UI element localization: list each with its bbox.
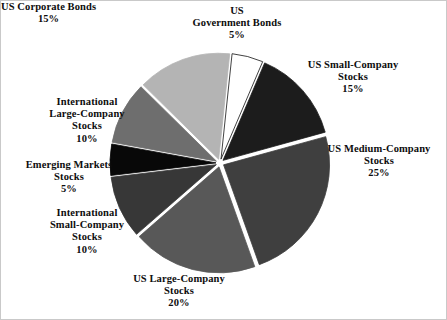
label-percent: 10% xyxy=(27,133,147,145)
label-line-3: Stocks xyxy=(27,120,147,132)
slice-label-us-small-company-stocks: US Small-Company Stocks 15% xyxy=(283,59,423,96)
label-line-1: International xyxy=(23,207,151,219)
label-line-2: Small-Company xyxy=(23,219,151,231)
label-line-1: US Medium-Company xyxy=(311,143,447,155)
label-percent: 15% xyxy=(1,13,96,25)
label-percent: 15% xyxy=(283,83,423,95)
slice-label-us-medium-company-stocks: US Medium-Company Stocks 25% xyxy=(311,143,447,180)
label-line-2: Large-Company xyxy=(27,108,147,120)
slice-label-us-large-company-stocks: US Large-Company Stocks 20% xyxy=(103,273,255,310)
label-line-1: US Small-Company xyxy=(283,59,423,71)
label-line-1: Emerging Markets xyxy=(7,159,131,171)
label-line-1: International xyxy=(27,96,147,108)
label-line-1: US xyxy=(177,5,297,17)
slice-label-us-corporate-bonds: US Corporate Bonds 15% xyxy=(1,1,96,25)
label-line-2: Government Bonds xyxy=(177,17,297,29)
slice-label-us-government-bonds: US Government Bonds 5% xyxy=(177,5,297,42)
label-percent: 20% xyxy=(103,297,255,309)
label-percent: 5% xyxy=(7,183,131,195)
label-line-2: Stocks xyxy=(103,285,255,297)
label-percent: 25% xyxy=(311,167,447,179)
label-line-2: Stocks xyxy=(283,71,423,83)
pie-chart-figure: US Government Bonds 5% US Small-Company … xyxy=(0,0,447,320)
label-line-1: US Large-Company xyxy=(103,273,255,285)
label-line-2: Stocks xyxy=(7,171,131,183)
label-percent: 10% xyxy=(23,244,151,256)
slice-label-international-small-company-stocks: International Small-Company Stocks 10% xyxy=(23,207,151,256)
label-line-2: Stocks xyxy=(311,155,447,167)
label-line-3: Stocks xyxy=(23,231,151,243)
slice-label-international-large-company-stocks: International Large-Company Stocks 10% xyxy=(27,96,147,145)
chart-plot-area: US Government Bonds 5% US Small-Company … xyxy=(1,1,446,319)
label-line-1: US Corporate Bonds xyxy=(1,1,96,13)
label-percent: 5% xyxy=(177,29,297,41)
slice-label-emerging-markets-stocks: Emerging Markets Stocks 5% xyxy=(7,159,131,196)
